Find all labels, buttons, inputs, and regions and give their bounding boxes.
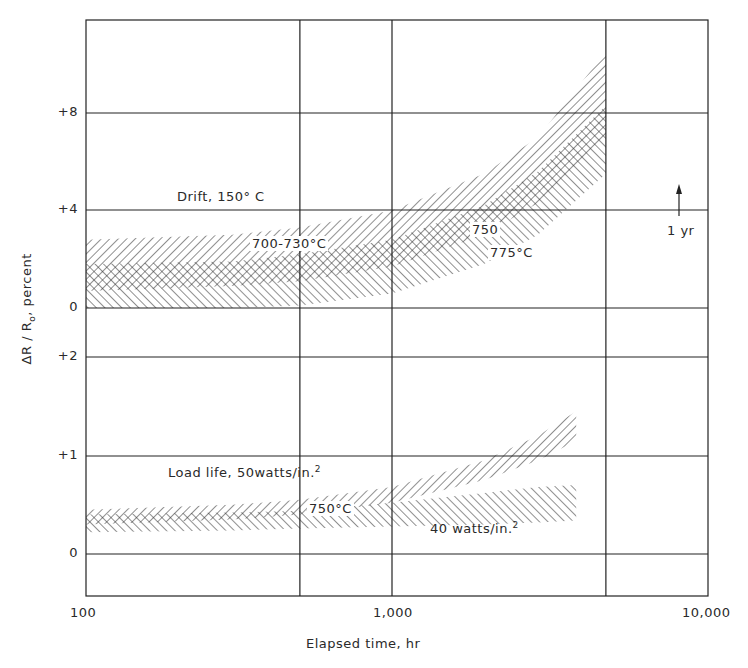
band-750-label: 750 (470, 222, 500, 237)
data-bands (86, 52, 606, 533)
one-year-arrow-icon (676, 184, 682, 216)
x-tick-1000: 1,000 (373, 605, 413, 620)
chart-canvas (0, 0, 748, 668)
load-750-label: 750°C (307, 501, 354, 516)
band-700-730-label: 700-730°C (250, 236, 328, 251)
x-tick-10000: 10,000 (682, 605, 731, 620)
one-year-label: 1 yr (667, 223, 694, 238)
x-tick-100: 100 (70, 605, 96, 620)
x-axis-label: Elapsed time, hr (306, 636, 420, 651)
load-life-label: Load life, 50watts/in.2 (168, 464, 321, 480)
band-750-775-c (86, 106, 606, 309)
band-775-label: 775°C (488, 245, 535, 260)
watts-40-label: 40 watts/in.2 (430, 520, 519, 536)
y-axis-label: ΔR / Ro, percent (19, 239, 37, 379)
y-tick-upper-8: +8 (38, 104, 78, 119)
y-tick-upper-4: +4 (38, 201, 78, 216)
y-tick-lower-0: 0 (38, 545, 78, 560)
drift-label: Drift, 150° C (177, 189, 265, 204)
y-tick-lower-1: +1 (38, 447, 78, 462)
y-tick-upper-0: 0 (38, 299, 78, 314)
y-tick-lower-2: +2 (38, 348, 78, 363)
